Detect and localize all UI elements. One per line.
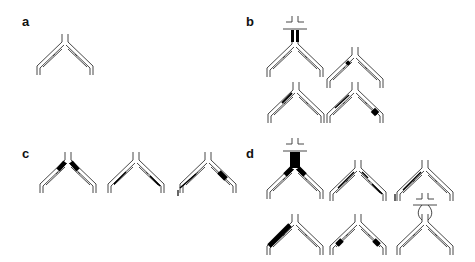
- antibody-b3: [268, 82, 324, 123]
- antibody-d1: [267, 138, 323, 199]
- antibody-d3: [395, 160, 453, 201]
- antibody-c1: [40, 152, 96, 193]
- antibody-c3: [178, 152, 236, 196]
- antibody-c2: [108, 152, 164, 193]
- antibody-b1: [267, 16, 323, 77]
- antibody-d4: [267, 214, 323, 255]
- antibody-b4: [327, 82, 383, 123]
- antibody-d2: [330, 160, 386, 201]
- antibody-d6: [397, 193, 453, 255]
- antibody-d5: [330, 214, 386, 255]
- antibody-b2: [327, 47, 383, 88]
- antibody-a: [37, 34, 93, 75]
- antibody-diagram: [0, 0, 475, 262]
